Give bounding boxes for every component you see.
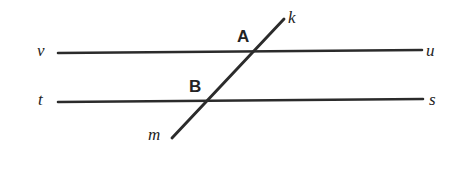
- label-line-m: m: [148, 126, 160, 143]
- label-line-t: t: [38, 91, 43, 108]
- line-vu: [58, 50, 422, 53]
- label-point-a: A: [237, 28, 249, 45]
- label-line-s: s: [429, 91, 436, 108]
- label-line-k: k: [288, 9, 296, 26]
- geometry-canvas: [0, 0, 459, 185]
- label-line-u: u: [426, 42, 435, 59]
- geometry-diagram: v u t s k m A B: [0, 0, 459, 185]
- label-line-v: v: [37, 42, 45, 59]
- label-point-b: B: [189, 78, 201, 95]
- line-ts: [58, 99, 423, 102]
